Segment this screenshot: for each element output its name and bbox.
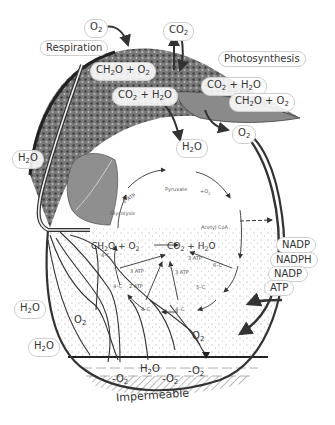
- cycle-4c-c: 4–C: [141, 306, 150, 312]
- cycle-4c-a: 4–C: [101, 252, 110, 258]
- cycle-6c: 6–C: [213, 262, 222, 268]
- cycle-3-atp-c: 3 ATP: [175, 269, 189, 275]
- cycle-3-atp-b: 3 ATP: [130, 268, 144, 274]
- label-o2-released: O2: [232, 125, 256, 144]
- label-minus-o2-b: -O2: [162, 373, 178, 386]
- label-h2o-trunk: H2O: [12, 150, 44, 169]
- cycle-4c-d: 4–C: [113, 283, 122, 289]
- label-co2-top: CO2: [163, 22, 194, 41]
- cycle-pyruvate: Pyruvate: [165, 186, 187, 192]
- label-minus-o2-a: -O2: [112, 373, 128, 386]
- label-minus-o2-c: -O2: [188, 365, 204, 378]
- cycle-acetyl-coa: Acetyl CoA: [201, 224, 228, 230]
- label-respiration-outputs: CO2 + H2O: [112, 87, 178, 106]
- label-nadp-1: NADP: [276, 237, 316, 253]
- cycle-sugar-oxygen: CH2O + O2: [91, 241, 140, 252]
- label-photosynthesis: Photosynthesis: [218, 51, 306, 67]
- label-h2o-soil-2: H2O: [28, 338, 60, 357]
- cycle-plus-o2: +O2: [200, 188, 210, 196]
- label-photosynthesis-outputs: CH2O + O2: [229, 93, 295, 112]
- cycle-co2-water: CO2 + H2O: [167, 241, 216, 252]
- label-respiration: Respiration: [40, 40, 108, 56]
- label-o2-soil-left: O2: [74, 314, 86, 327]
- cycle-4c-b: 4–C: [175, 306, 184, 312]
- label-h2o-groundwater: H2O: [140, 363, 160, 376]
- cycle-glycolysis: Glycolysis: [110, 210, 135, 216]
- label-o2-soil-right: O2: [192, 330, 204, 343]
- cycle-2-atp-bottom: 2 ATP: [129, 283, 143, 289]
- cycle-3-atp-a: 3 ATP: [188, 255, 202, 261]
- label-o2-top: O2: [84, 19, 108, 38]
- label-h2o-transpired: H2O: [176, 139, 208, 158]
- cycle-5c: 5–C: [196, 284, 205, 290]
- label-h2o-soil-1: H2O: [14, 300, 46, 319]
- label-respiration-inputs: CH2O + O2: [90, 62, 156, 81]
- label-atp: ATP: [264, 280, 294, 296]
